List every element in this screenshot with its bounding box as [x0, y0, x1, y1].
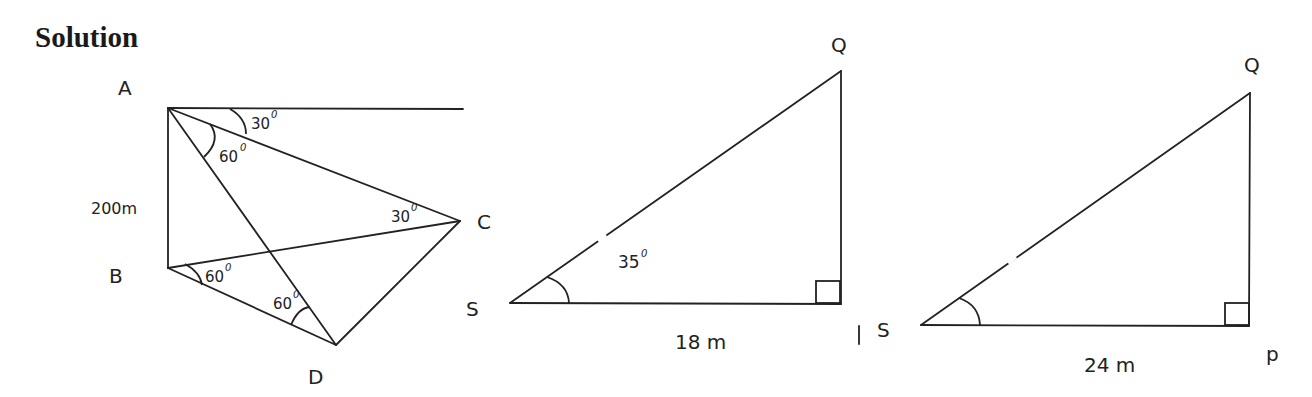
hypotenuse-gap	[1008, 257, 1016, 263]
base-length-label: 24 m	[1084, 353, 1135, 377]
base-length-label: 18 m	[675, 330, 726, 354]
vertex-label-B: B	[109, 264, 123, 288]
diagram-svg: Solution A B C D 200m 30 0 60 0 30	[0, 0, 1312, 397]
angle-label-at-C: 30	[391, 208, 410, 226]
vertex-label-S: S	[877, 318, 890, 342]
degree-mark: 0	[641, 248, 647, 259]
degree-mark: 0	[225, 262, 231, 273]
degree-mark: 0	[411, 202, 417, 213]
side-label-AB: 200m	[91, 199, 137, 218]
line-AD	[168, 108, 336, 345]
figure-3-right-triangle: Q S p 24 m	[877, 53, 1279, 377]
figure-2-right-triangle: Q S 35 0 18 m	[466, 33, 859, 354]
right-angle-marker	[816, 281, 840, 303]
vertex-label-S: S	[466, 297, 479, 321]
hypotenuse-gap	[598, 235, 606, 241]
degree-mark: 0	[271, 109, 277, 120]
line-BD	[168, 268, 336, 345]
angle-arc-60-at-D	[291, 307, 310, 325]
degree-mark: 0	[240, 142, 246, 153]
hypotenuse-SQ	[510, 71, 841, 303]
base-side-S	[510, 303, 841, 304]
vertex-label-C: C	[477, 210, 491, 234]
solution-heading: Solution	[35, 21, 138, 53]
vertex-label-Q: Q	[831, 33, 847, 57]
angle-label-at-D: 60	[273, 295, 292, 313]
base-side-SP	[921, 325, 1249, 326]
degree-mark: 0	[293, 289, 299, 300]
vertex-label-P: p	[1266, 342, 1279, 366]
vertex-label-D: D	[308, 365, 323, 389]
vertex-label-A: A	[118, 76, 132, 100]
line-BC	[168, 221, 460, 268]
vertex-label-Q: Q	[1244, 53, 1260, 77]
diagram-canvas: Solution A B C D 200m 30 0 60 0 30	[0, 0, 1312, 397]
figure-1-tower-diagram: A B C D 200m 30 0 60 0 30 0 60 0 60 0	[91, 76, 491, 389]
angle-label-at-B: 60	[205, 268, 224, 286]
angle-arc-30-at-A	[230, 109, 246, 134]
angle-label-at-A: 60	[219, 148, 238, 166]
vertical-side-QP	[1249, 93, 1250, 326]
angle-arc-60-at-A	[204, 124, 215, 157]
angle-label-at-S: 35	[618, 252, 640, 272]
angle-arc-at-S	[959, 298, 980, 325]
right-angle-marker	[1225, 303, 1249, 325]
hypotenuse-SQ	[921, 93, 1250, 325]
horizontal-line-A	[168, 108, 463, 109]
line-CD	[336, 221, 460, 345]
angle-arc-at-S	[547, 277, 569, 303]
angle-label-elevation: 30	[251, 115, 270, 133]
